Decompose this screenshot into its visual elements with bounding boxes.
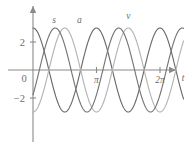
x-axis-label: t bbox=[182, 73, 185, 83]
axes-group bbox=[8, 6, 176, 142]
curve-label-v: v bbox=[126, 11, 131, 21]
y-tick-label: 2 bbox=[20, 37, 25, 48]
sinusoid-figure: 0 t π2π2−2sav bbox=[0, 0, 192, 154]
x-tick-label: π bbox=[94, 75, 99, 85]
y-tick-label: −2 bbox=[14, 93, 25, 104]
origin-label: 0 bbox=[21, 73, 26, 84]
x-tick-label: 2π bbox=[155, 75, 165, 85]
plot-canvas: 0 t π2π2−2sav bbox=[0, 0, 192, 154]
curve-label-s: s bbox=[52, 15, 56, 25]
y-axis-arrowhead bbox=[30, 6, 36, 13]
labels-group: 0 t π2π2−2sav bbox=[14, 11, 185, 104]
curve-label-a: a bbox=[77, 15, 82, 25]
